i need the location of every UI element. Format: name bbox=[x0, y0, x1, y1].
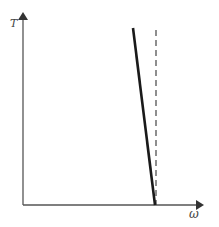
y-axis-label: T bbox=[10, 17, 19, 30]
thick-solid-line bbox=[133, 28, 155, 205]
diagram-canvas: T ω bbox=[0, 0, 219, 227]
x-axis-label: ω bbox=[189, 207, 199, 221]
